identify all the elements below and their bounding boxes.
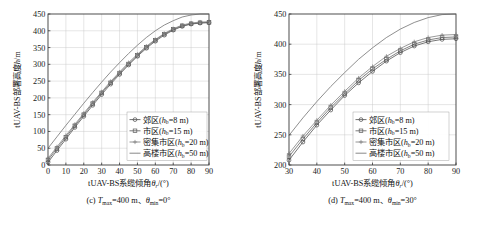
y-tick-label: 350 [274, 70, 286, 79]
x-tick-label: 50 [341, 167, 349, 176]
y-tick-label: 450 [274, 10, 286, 19]
legend-label: 密集市区(hb=20 m) [143, 137, 209, 148]
chart-svg: 30405060708090200250300350400450tUAV-BS部… [243, 0, 486, 225]
y-tick-label: 50 [37, 144, 45, 153]
y-tick-label: 250 [33, 77, 45, 86]
chart-panel-d: 30405060708090200250300350400450tUAV-BS部… [243, 0, 486, 225]
chart-panel-c: 0102030405060708090050100150200250300350… [0, 0, 243, 225]
y-tick-label: 400 [33, 27, 45, 36]
caption-value-theta: =0° [158, 196, 170, 205]
y-tick-label: 150 [33, 111, 45, 120]
y-tick-label: 400 [274, 40, 286, 49]
y-axis-title: tUAV-BS部署高度h/m [12, 51, 22, 128]
x-axis-title-unit: /(°) [402, 179, 413, 188]
legend-label: 密集市区(hb=20 m) [369, 137, 435, 148]
x-tick-label: 60 [151, 167, 159, 176]
legend-value: =50 m) [411, 149, 435, 158]
x-tick-label: 70 [169, 167, 177, 176]
legend-label: 市区(hb=15 m) [369, 126, 419, 137]
caption-value-theta: =30° [401, 196, 417, 205]
y-tick-label: 200 [33, 94, 45, 103]
x-tick-label: 90 [452, 167, 460, 176]
x-tick-label: 90 [205, 167, 213, 176]
legend-value: =50 m) [185, 149, 209, 158]
panel-caption: (c) Tmax=400 m、θmin=0° [86, 196, 170, 206]
caption-subscript-min: min [392, 200, 401, 206]
legend-value: =20 m) [185, 138, 209, 147]
y-tick-label: 100 [33, 127, 45, 136]
panel-caption: (d) Tmax=400 m、θmin=30° [328, 196, 417, 206]
y-tick-label: 300 [33, 60, 45, 69]
legend-value: =8 m) [395, 116, 415, 125]
chart-svg: 0102030405060708090050100150200250300350… [0, 0, 243, 225]
legend-value: =15 m) [395, 127, 419, 136]
x-tick-label: 20 [80, 167, 88, 176]
x-tick-label: 30 [98, 167, 106, 176]
caption-subscript-min: min [150, 200, 159, 206]
y-tick-label: 300 [274, 101, 286, 110]
x-tick-label: 70 [396, 167, 404, 176]
caption-subscript-max: max [102, 200, 112, 206]
y-tick-label: 0 [41, 161, 45, 170]
x-tick-label: 40 [313, 167, 321, 176]
x-axis-title-unit: /(°) [158, 179, 169, 188]
legend-value: =15 m) [169, 127, 193, 136]
figure-container: 0102030405060708090050100150200250300350… [0, 0, 486, 225]
x-axis-title: tUAV-BS系缆倾角θr/(°) [88, 178, 169, 189]
y-tick-label: 200 [274, 161, 286, 170]
legend: 郊区(hb=8 m)市区(hb=15 m)密集市区(hb=20 m)高楼市区(h… [127, 112, 209, 160]
x-tick-label: 60 [368, 167, 376, 176]
x-tick-label: 10 [62, 167, 70, 176]
x-tick-label: 80 [424, 167, 432, 176]
y-tick-label: 250 [274, 131, 286, 140]
caption-subscript-max: max [345, 200, 355, 206]
y-axis-title-symbol: h [13, 60, 22, 64]
legend-label: 高楼市区(hb=50 m) [143, 148, 209, 159]
y-axis-title-symbol: h [254, 60, 263, 64]
x-tick-label: 40 [115, 167, 123, 176]
legend-label: 高楼市区(hb=50 m) [369, 148, 435, 159]
x-tick-label: 0 [46, 167, 50, 176]
x-tick-label: 80 [187, 167, 195, 176]
caption-value-T: =400 m、 [112, 196, 146, 205]
y-tick-label: 450 [33, 10, 45, 19]
y-tick-label: 350 [33, 44, 45, 53]
caption-value-T: =400 m、 [354, 196, 388, 205]
legend-label: 市区(hb=15 m) [143, 126, 193, 137]
legend-value: =20 m) [411, 138, 435, 147]
y-axis-title: tUAV-BS部署高度h/m [253, 51, 263, 128]
legend-value: =8 m) [169, 116, 189, 125]
legend: 郊区(hb=8 m)市区(hb=15 m)密集市区(hb=20 m)高楼市区(h… [353, 112, 449, 160]
x-tick-label: 50 [133, 167, 141, 176]
x-axis-title: tUAV-BS系缆倾角θr/(°) [332, 178, 413, 189]
